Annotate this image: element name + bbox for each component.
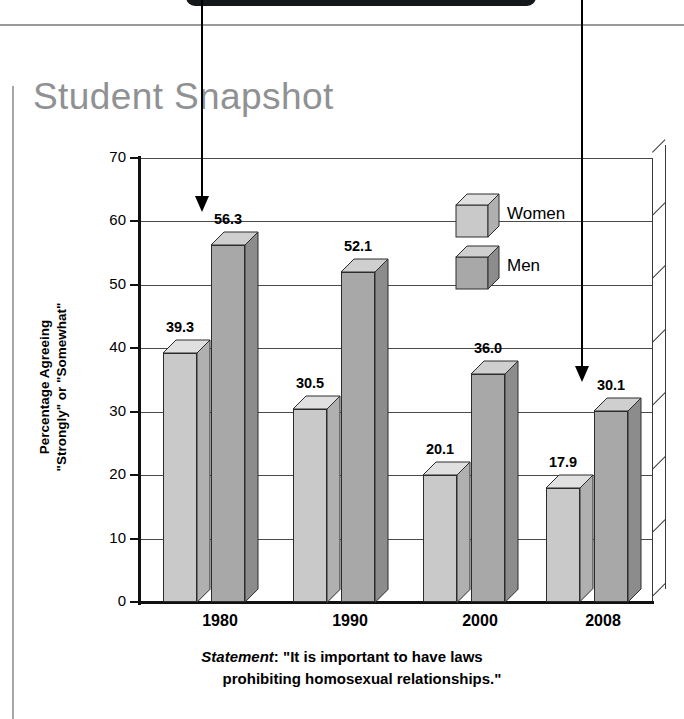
bar-value-label: 36.0: [459, 340, 517, 356]
y-tick-label: 0: [84, 592, 126, 609]
gridline-depth: [652, 392, 666, 406]
bar-men-1990: [341, 259, 375, 602]
gridline-depth: [652, 519, 666, 533]
page-root: Student Snapshot Percentage Agreeing "St…: [0, 0, 684, 719]
x-axis-label-1980: 1980: [165, 612, 275, 630]
y-axis-label: Percentage Agreeing "Strongly" or "Somew…: [36, 272, 70, 502]
x-axis-label-2000: 2000: [425, 612, 535, 630]
gridline-depth: [652, 329, 666, 343]
arrow-down-icon: [575, 366, 589, 382]
bar-side-face: [197, 340, 210, 602]
bar-women-2008: [546, 475, 580, 602]
bar-value-label: 30.5: [281, 375, 339, 391]
arrow-shaft: [581, 0, 583, 366]
legend-cube-front: [456, 205, 488, 237]
arrow-down-icon: [195, 196, 209, 212]
legend-cube-icon: [455, 193, 500, 238]
annotation-arrow-2: [572, 0, 592, 382]
y-axis-label-line2: "Strongly" or "Somewhat": [54, 303, 69, 472]
bar-3d-faces: [546, 475, 595, 604]
x-axis-label-2008: 2008: [548, 612, 658, 630]
bar-3d-faces: [293, 396, 342, 604]
floor-depth-line: [652, 582, 666, 596]
bar-value-label: 52.1: [329, 238, 387, 254]
bar-side-face: [245, 232, 258, 602]
y-tick: [130, 284, 138, 286]
y-tick-label: 30: [84, 402, 126, 419]
gridline-depth: [652, 138, 666, 152]
bar-3d-faces: [211, 232, 260, 604]
bar-men-2000: [471, 361, 505, 602]
y-tick: [130, 538, 138, 540]
bar-women-1990: [293, 396, 327, 602]
bar-side-face: [628, 398, 641, 602]
legend-cube-icon: [455, 245, 500, 290]
y-tick: [130, 157, 138, 159]
bar-side-face: [457, 462, 470, 602]
y-tick-label: 70: [84, 148, 126, 165]
bar-value-label: 56.3: [199, 211, 257, 227]
bar-men-1980: [211, 232, 245, 602]
y-tick-label: 10: [84, 529, 126, 546]
y-tick-label: 60: [84, 211, 126, 228]
bar-3d-faces: [594, 398, 643, 604]
gridline-depth: [652, 265, 666, 279]
y-tick: [130, 411, 138, 413]
bar-side-face: [375, 259, 388, 602]
gridline-depth: [652, 456, 666, 470]
caption-line1: "It is important to have laws: [283, 648, 483, 665]
bar-side-face: [580, 475, 593, 602]
bar-men-2008: [594, 398, 628, 602]
frame-vertical-1: [665, 145, 666, 589]
y-tick-label: 20: [84, 465, 126, 482]
legend-label: Men: [507, 256, 540, 276]
arrow-shaft: [201, 0, 203, 196]
y-tick-label: 40: [84, 338, 126, 355]
caption-colon: :: [274, 648, 283, 665]
bar-side-face: [505, 361, 518, 602]
y-tick: [130, 474, 138, 476]
bar-3d-faces: [423, 462, 472, 604]
y-tick: [130, 220, 138, 222]
y-axis-label-line1: Percentage Agreeing: [37, 320, 52, 455]
bar-value-label: 39.3: [151, 319, 209, 335]
x-axis-label-1990: 1990: [295, 612, 405, 630]
bar-value-label: 20.1: [411, 441, 469, 457]
bar-3d-faces: [471, 361, 520, 604]
gridline-depth: [652, 202, 666, 216]
chart-caption: Statement: "It is important to have laws…: [0, 646, 684, 690]
y-tick-label: 50: [84, 275, 126, 292]
y-tick: [130, 347, 138, 349]
y-tick: [130, 601, 138, 603]
bar-value-label: 17.9: [534, 454, 592, 470]
bar-side-face: [327, 396, 340, 602]
bar-women-2000: [423, 462, 457, 602]
bar-3d-faces: [341, 259, 390, 604]
caption-line2: prohibiting homosexual relationships.": [0, 668, 684, 690]
legend-label: Women: [507, 204, 565, 224]
bar-women-1980: [163, 340, 197, 602]
bar-3d-faces: [163, 340, 212, 604]
y-axis-line: [138, 156, 141, 605]
annotation-arrow-1: [192, 0, 212, 212]
frame-vertical-0: [652, 158, 653, 602]
legend-cube-front: [456, 257, 488, 289]
caption-statement-label: Statement: [201, 648, 274, 665]
